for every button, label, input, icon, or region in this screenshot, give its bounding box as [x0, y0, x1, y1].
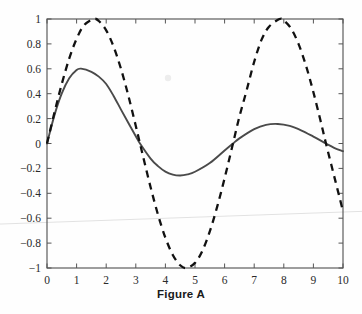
- x-tick-label: 2: [103, 274, 109, 286]
- x-tick-label: 1: [74, 274, 80, 286]
- x-tick-label: 0: [44, 274, 50, 286]
- plot-area: 012345678910 −1−0.8−0.6−0.4−0.200.20.40.…: [0, 0, 362, 314]
- x-tick-label: 9: [311, 274, 317, 286]
- y-tick-label-group: −1−0.8−0.6−0.4−0.200.20.40.60.81: [20, 13, 41, 274]
- series-line-damped-sine: [47, 69, 343, 176]
- y-tick-label: −1: [29, 262, 41, 274]
- x-tick-label: 3: [133, 274, 139, 286]
- y-tick-label: −0.2: [20, 162, 41, 174]
- y-tick-label: −0.8: [20, 237, 41, 249]
- x-tick-label-group: 012345678910: [44, 274, 349, 286]
- x-tick-label: 5: [192, 274, 198, 286]
- x-tick-label: 4: [163, 274, 169, 286]
- x-tick-label: 8: [281, 274, 287, 286]
- y-tick-label: 0.2: [27, 113, 42, 125]
- y-tick-label: −0.4: [20, 187, 41, 199]
- series-line-sine: [47, 19, 343, 269]
- scan-fold-line: [0, 211, 362, 224]
- x-tick-mark-group: [47, 19, 343, 268]
- y-tick-mark-group: [47, 19, 343, 268]
- scan-artifact-group: [0, 75, 362, 224]
- y-tick-label: 1: [35, 13, 41, 25]
- x-tick-label: 7: [251, 274, 257, 286]
- axis-frame: [47, 19, 343, 268]
- y-tick-label: −0.6: [20, 212, 41, 224]
- y-tick-label: 0.6: [27, 63, 42, 75]
- scan-speck-icon: [165, 75, 171, 81]
- data-series-group: [47, 19, 343, 269]
- x-tick-label: 10: [337, 274, 349, 286]
- figure-caption: Figure A: [0, 288, 362, 300]
- y-tick-label: 0.4: [27, 88, 42, 100]
- plot-box-border: [47, 19, 343, 268]
- figure-container: 012345678910 −1−0.8−0.6−0.4−0.200.20.40.…: [0, 0, 362, 314]
- y-tick-label: 0.8: [27, 38, 42, 50]
- y-tick-label: 0: [35, 138, 41, 150]
- x-tick-label: 6: [222, 274, 228, 286]
